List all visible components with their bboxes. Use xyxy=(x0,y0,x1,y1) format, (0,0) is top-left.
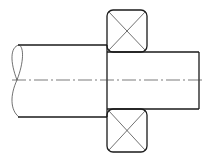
large-shaft-section xyxy=(18,45,107,117)
shaft-break-line xyxy=(12,45,23,117)
shaft-bearing-drawing xyxy=(0,0,210,160)
bearing-top xyxy=(107,10,147,52)
small-shaft-section xyxy=(107,52,199,109)
bearing-bottom xyxy=(107,109,147,152)
